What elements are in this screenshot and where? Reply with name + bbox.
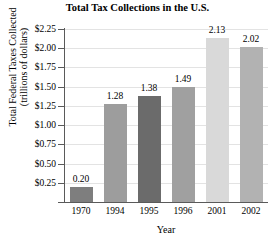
y-axis-tick-label: $0.75: [0, 139, 56, 149]
bar: [206, 38, 229, 202]
y-axis-tick-label: $1.75: [0, 62, 56, 72]
chart-title: Total Tax Collections in the U.S.: [0, 2, 275, 13]
x-axis-line: [58, 202, 268, 203]
y-axis-tick-label: $2.00: [0, 43, 56, 53]
y-axis-tick-label: $1.25: [0, 101, 56, 111]
bar-value-label: 1.49: [163, 74, 203, 84]
bar: [172, 87, 195, 202]
bar: [104, 104, 127, 202]
bar-value-label: 0.20: [61, 174, 101, 184]
bar-chart-figure: Total Tax Collections in the U.S. Total …: [0, 0, 275, 252]
bar: [70, 187, 93, 202]
y-axis-tick-label: $0.25: [0, 178, 56, 188]
y-axis-tick-label: $0.50: [0, 159, 56, 169]
y-axis-tick-label: $2.25: [0, 24, 56, 34]
y-axis-tick-label: $1.00: [0, 120, 56, 130]
x-axis-tick-label: 2002: [231, 206, 271, 216]
bar-value-label: 2.02: [231, 34, 271, 44]
bar: [240, 47, 263, 202]
bar: [138, 96, 161, 202]
y-axis-tick-label: $1.50: [0, 82, 56, 92]
x-axis-title: Year: [64, 224, 268, 235]
